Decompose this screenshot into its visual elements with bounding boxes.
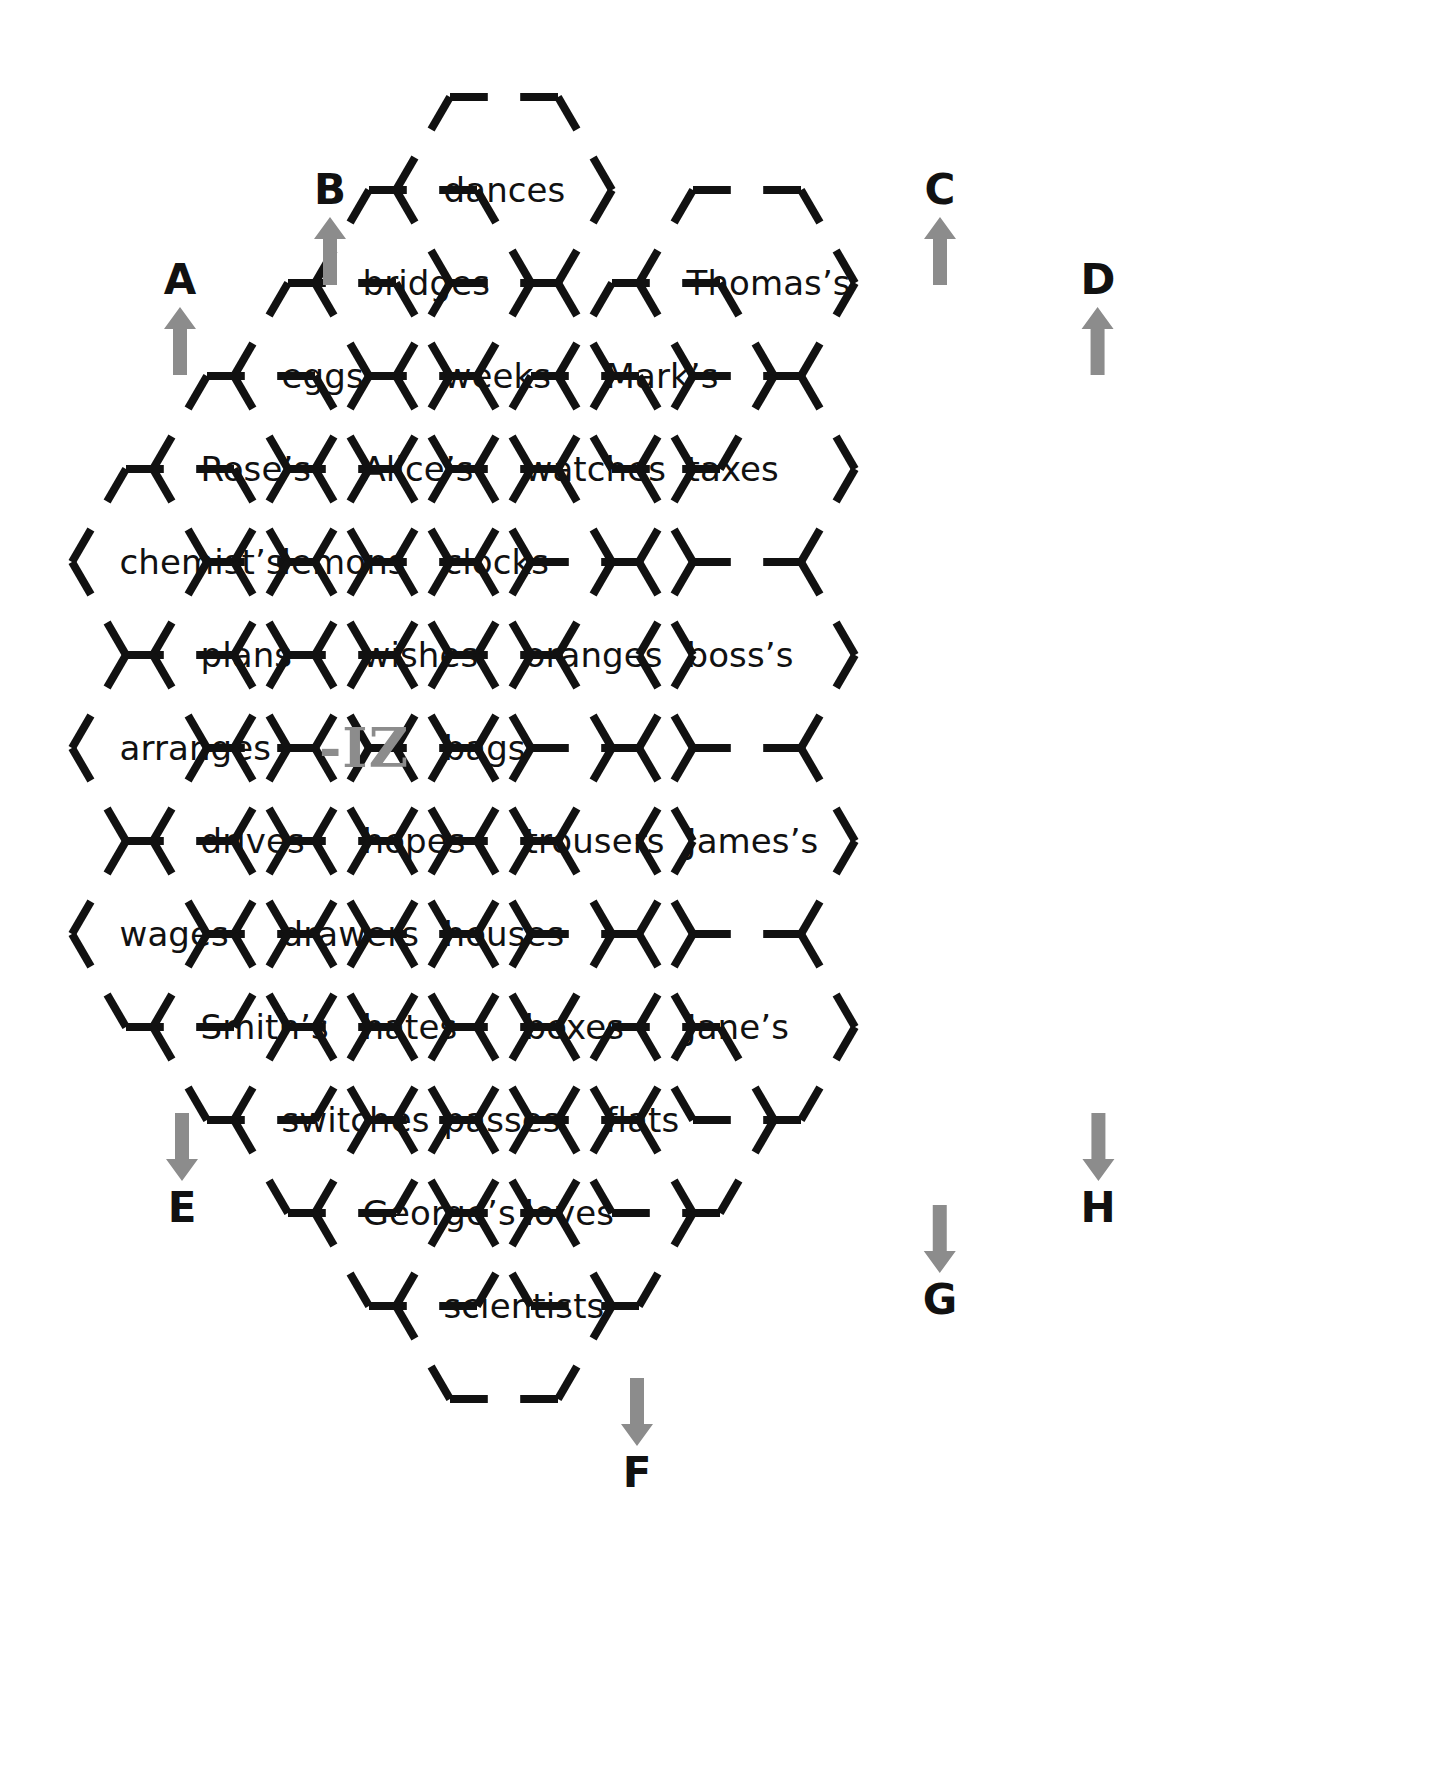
- hex-cell-label: bags: [444, 728, 526, 768]
- hex-cell-label: drives: [201, 821, 305, 861]
- hex-cell-label: wages: [120, 914, 229, 954]
- arrow-down-icon: [165, 1111, 199, 1183]
- hex-cell-label: George’s: [363, 1193, 516, 1233]
- hex-cell-label: eggs: [282, 356, 364, 396]
- hex-cell-label: scientists: [444, 1286, 605, 1326]
- hex-cell-label: switches: [282, 1100, 430, 1140]
- center-cell-label: -IZ: [319, 716, 409, 780]
- hex-cell-label: Rose’s: [201, 449, 312, 489]
- hex-cell-label: wishes: [363, 635, 479, 675]
- hex-cell-label: lemons: [282, 542, 406, 582]
- hex-cell-label: chemist’s: [120, 542, 284, 582]
- arrow-up-icon: [313, 215, 347, 287]
- marker-letter: E: [168, 1187, 197, 1229]
- arrow-up-icon: [163, 305, 197, 377]
- hex-cell-label: James’s: [687, 821, 819, 861]
- marker-letter: C: [925, 169, 956, 211]
- hex-cell-label: loves: [525, 1193, 615, 1233]
- hex-cell-label: oranges: [525, 635, 663, 675]
- marker-letter: F: [623, 1452, 652, 1494]
- entry-marker-b: B: [313, 169, 347, 287]
- arrow-down-icon: [1081, 1111, 1115, 1183]
- entry-marker-d: D: [1081, 259, 1116, 377]
- hex-cell-label: drawers: [282, 914, 420, 954]
- hex-cell-label: Thomas’s: [687, 263, 851, 303]
- hex-cell-label: dances: [444, 170, 566, 210]
- hex-cell-label: weeks: [444, 356, 552, 396]
- hex-cell-label: hopes: [363, 821, 466, 861]
- hex-cell-label: boxes: [525, 1007, 625, 1047]
- marker-letter: G: [923, 1279, 957, 1321]
- hex-cell-label: clocks: [444, 542, 550, 582]
- hex-cell-label: Mark’s: [606, 356, 719, 396]
- entry-marker-e: E: [165, 1111, 199, 1229]
- hex-cell-label: trousers: [525, 821, 665, 861]
- hex-cell-label: Smith’s: [201, 1007, 329, 1047]
- hex-cell-label: houses: [444, 914, 565, 954]
- hex-cell-label: taxes: [687, 449, 779, 489]
- hex-cell-label: Jane’s: [687, 1007, 789, 1047]
- entry-marker-f: F: [620, 1376, 654, 1494]
- hex-cell-label: flats: [606, 1100, 680, 1140]
- hex-cell-label: boss’s: [687, 635, 794, 675]
- entry-marker-g: G: [923, 1203, 957, 1321]
- hex-cell-label: hates: [363, 1007, 458, 1047]
- arrow-up-icon: [923, 215, 957, 287]
- hex-cell-label: arranges: [120, 728, 272, 768]
- marker-letter: B: [314, 169, 346, 211]
- hex-cell-label: Alice’s: [363, 449, 474, 489]
- entry-marker-c: C: [923, 169, 957, 287]
- figure-canvas: dancesbridgesThomas’seggsweeksMark’sRose…: [0, 0, 1450, 1784]
- marker-letter: H: [1080, 1187, 1115, 1229]
- arrow-up-icon: [1081, 305, 1115, 377]
- hex-cell-label: plans: [201, 635, 293, 675]
- entry-marker-a: A: [163, 259, 197, 377]
- entry-marker-h: H: [1080, 1111, 1115, 1229]
- hex-cell-label: bridges: [363, 263, 491, 303]
- hex-cell-label: watches: [525, 449, 667, 489]
- arrow-down-icon: [923, 1203, 957, 1275]
- marker-letter: D: [1081, 259, 1116, 301]
- marker-letter: A: [164, 259, 197, 301]
- hex-cell-label: passes: [444, 1100, 561, 1140]
- arrow-down-icon: [620, 1376, 654, 1448]
